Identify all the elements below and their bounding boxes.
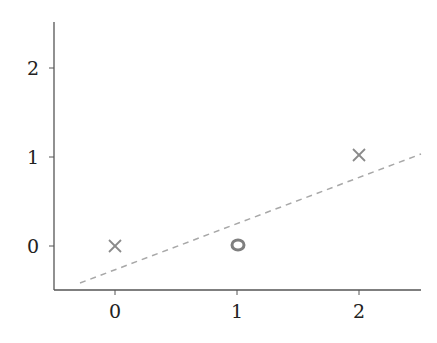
y-ticks: 0 1 2: [27, 57, 54, 257]
x-ticks: 0 1 2: [109, 290, 365, 322]
x-tick-label-1: 1: [231, 300, 243, 322]
decision-boundary-line: [80, 154, 421, 283]
y-tick-label-0: 0: [27, 235, 39, 257]
scatter-chart: 0 1 2 0 1 2: [0, 0, 437, 343]
x-tick-label-2: 2: [353, 300, 365, 322]
point-x-2-1: [353, 149, 365, 161]
y-tick-label-2: 2: [27, 57, 39, 79]
point-x-0-0: [109, 240, 121, 252]
point-o-1-0: [232, 240, 244, 250]
x-tick-label-0: 0: [109, 300, 121, 322]
y-tick-label-1: 1: [27, 146, 39, 168]
